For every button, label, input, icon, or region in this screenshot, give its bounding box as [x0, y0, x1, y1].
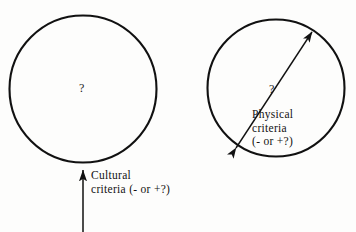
diagram-vector-layer: [0, 0, 356, 232]
diagram-canvas: ? ? Cultural criteria (- or +?) Physical…: [0, 0, 356, 232]
cultural-criteria-label: Cultural criteria (- or +?): [91, 169, 170, 196]
physical-criteria-label: Physical criteria (- or +?): [252, 108, 293, 149]
left-circle-question-mark: ?: [79, 82, 84, 94]
right-circle-question-mark: ?: [269, 83, 274, 95]
